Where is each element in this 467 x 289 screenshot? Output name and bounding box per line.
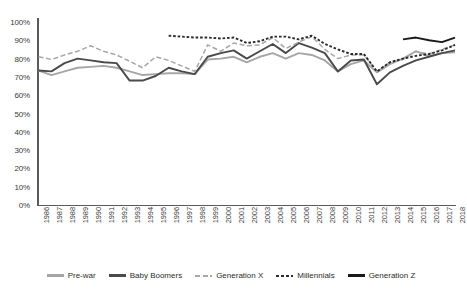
x-axis-tick-label: 2011 [367,207,376,223]
legend-item[interactable]: Pre-war [47,271,96,280]
x-axis-tick-label: 1997 [185,207,194,223]
x-axis-tick-label: 2017 [445,207,454,223]
x-axis-tick-label: 1999 [211,207,220,223]
x-axis-tick-label: 2003 [263,207,272,223]
x-axis-tick-label: 1994 [146,207,155,223]
x-axis-tick-label: 2008 [328,207,337,223]
x-axis-tick-label: 2001 [237,207,246,223]
x-axis-tick-label: 2004 [276,207,285,223]
x-axis-tick-label: 1989 [81,207,90,223]
legend-label: Generation Z [369,271,416,280]
x-axis-tick-label: 2012 [380,207,389,223]
legend-swatch-icon [348,274,365,276]
x-axis-tick-label: 1987 [55,207,64,223]
legend-label: Pre-war [68,271,96,280]
x-axis-tick-label: 2010 [354,207,363,223]
x-axis-tick-label: 1991 [107,207,116,223]
x-axis-tick-label: 2015 [419,207,428,223]
x-axis-tick-label: 1990 [94,207,103,223]
legend-swatch-icon [276,275,293,277]
x-axis-tick-label: 1992 [120,207,129,223]
x-axis-tick-label: 2007 [315,207,324,223]
legend-item[interactable]: Baby Boomers [109,271,182,280]
legend-item[interactable]: Millennials [276,271,334,280]
x-axis-tick-label: 2018 [458,207,467,223]
x-axis-tick-label: 2005 [289,207,298,223]
legend-label: Baby Boomers [130,271,182,280]
legend-swatch-icon [47,274,64,276]
legend-label: Millennials [297,271,334,280]
x-axis: 1986198719881989199019911992199319941995… [0,207,462,251]
x-axis-tick-label: 1998 [198,207,207,223]
x-axis-tick-label: 2013 [393,207,402,223]
series-line [403,38,455,43]
legend-swatch-icon [195,275,212,277]
x-axis-tick-label: 1988 [68,207,77,223]
x-axis-tick-label: 1993 [133,207,142,223]
chart-legend: Pre-warBaby BoomersGeneration XMillennia… [0,262,462,289]
legend-swatch-icon [109,274,126,276]
legend-item[interactable]: Generation Z [348,271,416,280]
x-axis-tick-label: 2006 [302,207,311,223]
x-axis-tick-label: 1996 [172,207,181,223]
legend-item[interactable]: Generation X [195,271,263,280]
x-axis-tick-label: 2016 [432,207,441,223]
x-axis-tick-label: 2000 [224,207,233,223]
x-axis-tick-label: 1995 [159,207,168,223]
x-axis-tick-label: 2009 [341,207,350,223]
x-axis-tick-label: 2014 [406,207,415,223]
x-axis-tick-label: 1986 [42,207,51,223]
legend-label: Generation X [216,271,263,280]
x-axis-tick-label: 2002 [250,207,259,223]
